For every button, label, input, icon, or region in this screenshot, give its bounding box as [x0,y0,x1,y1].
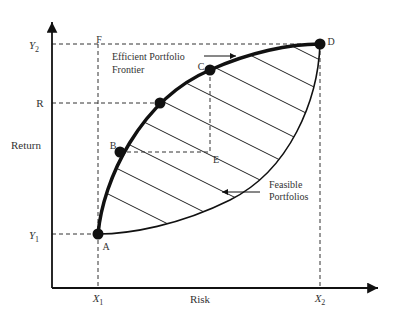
point-c [205,65,216,76]
point-d-label: D [327,36,334,47]
point-r [155,98,166,109]
r-label: R [36,97,44,109]
point-b-label: B [110,140,117,151]
feasible-annotation-line1: Feasible [269,179,303,190]
y1-label: Y1 [29,229,39,244]
frontier-annotation-line1: Efficient Portfolio [112,51,185,62]
portfolio-frontier-diagram: Y2 R Y1 Return X1 X2 Risk F A B C D E Ef… [0,0,400,319]
point-e-label: E [213,154,219,165]
point-f-label: F [96,34,102,45]
feasible-region-hatching [40,0,360,319]
guide-lines [52,44,320,288]
point-c-label: C [198,61,205,72]
point-a-label: A [102,241,110,252]
y2-label: Y2 [29,39,39,54]
x2-label: X2 [314,292,326,307]
x-axis-title: Risk [190,293,211,305]
point-a [93,229,104,240]
feasible-annotation-line2: Portfolios [269,191,309,202]
y-axis-title: Return [11,139,41,151]
point-d [315,39,326,50]
frontier-annotation-line2: Frontier [112,64,145,75]
x1-label: X1 [92,292,104,307]
